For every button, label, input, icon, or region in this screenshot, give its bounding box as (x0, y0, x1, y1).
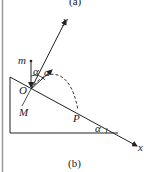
y-axis-line (31, 20, 66, 89)
incline-diagram: (a) y x m O M P α α α (b) (0, 0, 151, 172)
label-alpha-incline: α (95, 122, 101, 134)
caption-a: (a) (69, 0, 82, 8)
label-o: O (19, 84, 27, 96)
label-M: M (18, 106, 29, 118)
caption-b: (b) (68, 157, 81, 170)
label-alpha-2: α (44, 66, 50, 78)
label-alpha-1: α (33, 65, 39, 77)
label-y: y (62, 14, 68, 26)
label-P: P (72, 112, 80, 124)
label-x: x (137, 141, 143, 153)
mass-dot (30, 60, 33, 63)
label-m: m (18, 54, 26, 66)
